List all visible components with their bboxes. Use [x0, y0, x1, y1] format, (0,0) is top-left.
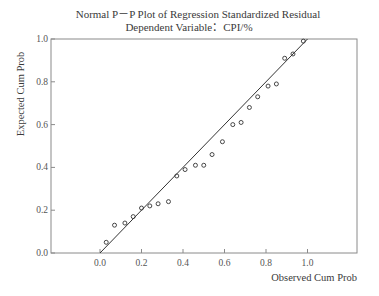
data-point: [210, 153, 214, 157]
y-tick-label: 1.0: [36, 34, 48, 44]
data-point: [113, 223, 117, 227]
x-tick-label: 0.6: [219, 258, 231, 268]
x-tick-label: 0.2: [136, 258, 148, 268]
data-point: [202, 163, 206, 167]
y-axis-ticks: 0.00.20.40.60.81.0: [36, 34, 55, 258]
data-point: [123, 221, 127, 225]
data-point: [247, 105, 251, 109]
x-tick-label: 0.8: [260, 258, 272, 268]
data-point: [231, 123, 235, 127]
x-axis-label: Observed Cum Prob: [271, 272, 357, 283]
y-tick-label: 0.4: [36, 162, 48, 172]
data-point: [283, 56, 287, 60]
chart-subtitle: Dependent Variable：CPI/%: [125, 21, 252, 33]
reference-diagonal-line: [100, 39, 308, 253]
pp-plot-chart: Normal P－P Plot of Regression Standardiz…: [0, 0, 379, 296]
data-point: [239, 120, 243, 124]
x-axis-ticks: 0.00.20.40.60.81.0: [94, 249, 314, 268]
data-point: [104, 240, 108, 244]
data-point: [183, 168, 187, 172]
data-points: [104, 39, 305, 244]
chart-title: Normal P－P Plot of Regression Standardiz…: [76, 8, 321, 20]
data-point: [266, 84, 270, 88]
y-tick-label: 0.8: [36, 77, 48, 87]
x-tick-label: 0.4: [177, 258, 189, 268]
data-point: [156, 202, 160, 206]
data-point: [256, 95, 260, 99]
data-point: [274, 82, 278, 86]
y-tick-label: 0.6: [36, 120, 48, 130]
data-point: [220, 140, 224, 144]
x-tick-label: 0.0: [94, 258, 106, 268]
data-point: [193, 163, 197, 167]
y-tick-label: 0.2: [36, 205, 48, 215]
data-point: [166, 200, 170, 204]
data-point: [148, 204, 152, 208]
y-tick-label: 0.0: [36, 248, 48, 258]
x-tick-label: 1.0: [302, 258, 314, 268]
y-axis-label: Expected Cum Prob: [15, 52, 26, 137]
